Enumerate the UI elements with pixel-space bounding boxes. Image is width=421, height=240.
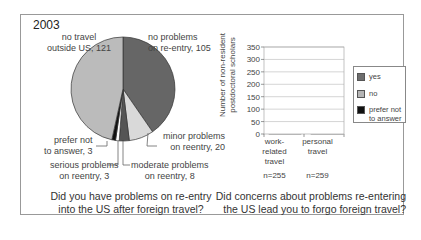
svg-text:300: 300 [247,55,261,64]
ylabel-line2: postdoctoral scholars [228,30,238,120]
swatch-yes-icon [357,73,365,81]
bar-category-work: work- related travel n=255 [252,137,297,181]
legend-no-label: no [369,89,377,98]
bar-question-line2: the US lead you to forgo foreign travel? [214,203,406,216]
bar-axes: 050100150200250300350 [247,43,344,139]
bar-legend: yes no prefer not to answer [353,66,406,123]
x1-line1: work- [252,137,297,147]
svg-text:50: 50 [251,118,260,127]
legend-yes: yes [357,72,381,81]
x1-line2: related [252,147,297,157]
x2-line2: travel [295,147,340,157]
x1-line3: travel [252,157,297,167]
x2-n: n=259 [295,171,340,181]
swatch-no-icon [357,90,365,98]
ylabel-line1: Number of non-resident [218,30,228,120]
x1-n: n=255 [252,171,297,181]
bar-category-personal: personal travel n=259 [295,137,340,181]
svg-text:150: 150 [247,93,261,102]
svg-text:350: 350 [247,43,261,52]
svg-text:100: 100 [247,105,261,114]
bar-question-line1: Did concerns about problems re-entering [214,190,406,203]
svg-text:200: 200 [247,80,261,89]
legend-yes-label: yes [369,72,381,81]
x2-line1: personal [295,137,340,147]
svg-text:250: 250 [247,68,261,77]
legend-prefer-label2: to answer [357,114,402,123]
bar-y-axis-label: Number of non-resident postdoctoral scho… [218,30,238,120]
legend-prefer-not: prefer not to answer [357,105,402,123]
swatch-prefer-icon [357,106,365,114]
legend-prefer-label1: prefer not [369,105,401,114]
bar-question: Did concerns about problems re-entering … [214,190,406,216]
legend-no: no [357,89,377,98]
